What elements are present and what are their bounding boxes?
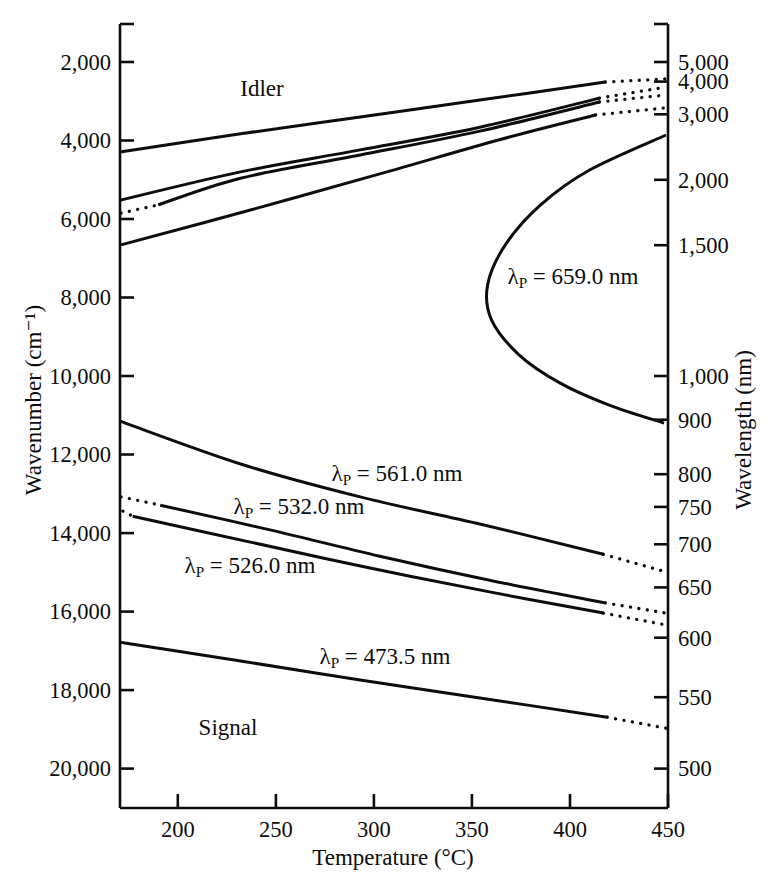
- curve-label-pump-526-0: λP = 526.0 nm: [185, 553, 316, 579]
- left-tick-label-6000: 6,000: [60, 207, 111, 232]
- left-tick-label-8000: 8,000: [60, 285, 111, 310]
- right-tick-label-900: 900: [678, 408, 712, 433]
- right-tick-label-800: 800: [678, 462, 712, 487]
- right-tick-label-1500: 1,500: [678, 233, 729, 258]
- right-tick-label-4000: 4,000: [678, 69, 729, 94]
- x-tick-label-350: 350: [455, 817, 489, 842]
- left-tick-label-12000: 12,000: [49, 442, 111, 467]
- right-tick-label-700: 700: [678, 532, 712, 557]
- left-tick-label-20000: 20,000: [49, 756, 111, 781]
- x-tick-label-300: 300: [357, 817, 391, 842]
- curve-label-pump-659-0: λP = 659.0 nm: [508, 264, 639, 290]
- right-tick-label-1000: 1,000: [678, 364, 729, 389]
- curve-pump-526-0-signal-dotted: [603, 613, 666, 625]
- right-tick-label-600: 600: [678, 626, 712, 651]
- y-right-axis-title: Wavelength (nm): [731, 350, 757, 510]
- right-tick-label-500: 500: [678, 756, 712, 781]
- curve-pump-526-0-idler-solid: [120, 98, 599, 200]
- left-tick-label-2000: 2,000: [60, 50, 111, 75]
- curve-pump-561-0-signal-dotted: [603, 554, 666, 572]
- opo-tuning-curves-figure: 2,0004,0006,0008,00010,00012,00014,00016…: [0, 0, 773, 892]
- curve-pump-561-0-idler-solid: [121, 115, 596, 245]
- right-tick-label-650: 650: [678, 575, 712, 600]
- left-tick-label-4000: 4,000: [60, 128, 111, 153]
- curve-pump-526-0-idler-dotted: [599, 87, 666, 98]
- y-left-axis-title: Wavenumber (cm⁻¹): [20, 305, 47, 495]
- curve-pump-532-0-idler-dotted: [121, 205, 158, 213]
- right-tick-label-750: 750: [678, 495, 712, 520]
- left-tick-label-14000: 14,000: [49, 521, 111, 546]
- x-tick-label-200: 200: [161, 817, 195, 842]
- tuning-curves-chart: 2,0004,0006,0008,00010,00012,00014,00016…: [0, 0, 773, 892]
- curve-pump-473-5-signal-dotted: [607, 717, 666, 728]
- curve-label-pump-561-0: λP = 561.0 nm: [332, 461, 463, 487]
- left-tick-label-16000: 16,000: [49, 599, 111, 624]
- signal-region-label: Signal: [199, 715, 258, 741]
- curve-pump-526-0-signal-dotted: [123, 511, 133, 516]
- left-tick-label-10000: 10,000: [49, 364, 111, 389]
- x-tick-label-450: 450: [651, 817, 685, 842]
- curve-pump-532-0-signal-dotted: [605, 603, 666, 613]
- x-tick-label-250: 250: [259, 817, 293, 842]
- right-tick-label-2000: 2,000: [678, 168, 729, 193]
- x-axis-title: Temperature (°C): [312, 845, 473, 871]
- curve-label-pump-532-0: λP = 532.0 nm: [234, 494, 365, 520]
- curve-label-pump-473-5: λP = 473.5 nm: [320, 644, 451, 670]
- curve-pump-561-0-signal-solid: [120, 421, 603, 554]
- x-tick-label-400: 400: [553, 817, 587, 842]
- curve-pump-532-0-idler-solid: [158, 102, 599, 205]
- curve-pump-532-0-signal-dotted: [121, 497, 160, 505]
- idler-region-label: Idler: [240, 76, 283, 102]
- curve-pump-473-5-idler-solid: [120, 82, 605, 152]
- left-tick-label-18000: 18,000: [49, 678, 111, 703]
- right-tick-label-550: 550: [678, 685, 712, 710]
- right-tick-label-3000: 3,000: [678, 102, 729, 127]
